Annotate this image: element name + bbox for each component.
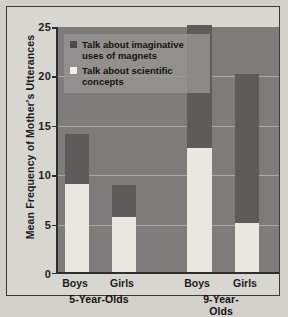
legend-label-imaginative: Talk about imaginative uses of magnets (82, 39, 184, 61)
legend-item-imaginative: Talk about imaginative uses of magnets (70, 39, 204, 61)
y-axis-labels: 25 20 15 10 5 0 (7, 27, 51, 274)
legend: Talk about imaginative uses of magnets T… (64, 34, 210, 93)
y-tick-label-5: 5 (45, 219, 51, 231)
legend-label-scientific: Talk about scientific concepts (82, 65, 173, 87)
legend-label-line2: concepts (82, 76, 124, 87)
y-tick-label-10: 10 (38, 169, 51, 181)
bar-segment-scientific (235, 223, 259, 272)
x-tick-label-5yr-girls: Girls (110, 277, 134, 289)
legend-swatch-light-icon (70, 67, 77, 74)
bar-segment-scientific (112, 217, 136, 272)
x-tick-label-9yr-girls: Girls (233, 277, 257, 289)
chart-frame: Mean Frequency of Mother's Utterances 25… (6, 6, 280, 296)
bar-5yr-boys (65, 134, 89, 272)
legend-item-scientific: Talk about scientific concepts (70, 65, 204, 87)
group-label-5-year-olds: 5-Year-Olds (69, 293, 128, 305)
legend-swatch-dark-icon (70, 41, 77, 48)
legend-label-line1: Talk about imaginative (82, 39, 184, 50)
y-tick-0 (52, 273, 58, 275)
bar-segment-scientific (187, 148, 212, 273)
figure: Mean Frequency of Mother's Utterances 25… (0, 0, 288, 317)
x-tick-label-9yr-boys: Boys (184, 277, 210, 289)
bar-9yr-girls (235, 74, 259, 272)
y-tick-label-25: 25 (38, 21, 51, 33)
legend-label-line2: uses of magnets (82, 50, 157, 61)
y-tick-25 (52, 27, 58, 29)
bar-5yr-girls (112, 185, 136, 272)
bar-segment-scientific (65, 184, 89, 272)
y-tick-label-0: 0 (45, 268, 51, 280)
x-tick-label-5yr-boys: Boys (62, 277, 88, 289)
x-axis-labels: Boys Girls Boys Girls (56, 277, 279, 293)
group-label-9-year-olds: 9-Year-Olds (192, 293, 250, 317)
x-axis-group-labels: 5-Year-Olds 9-Year-Olds (56, 293, 279, 309)
y-tick-label-20: 20 (38, 70, 51, 82)
y-tick-label-15: 15 (38, 120, 51, 132)
legend-label-line1: Talk about scientific (82, 65, 173, 76)
